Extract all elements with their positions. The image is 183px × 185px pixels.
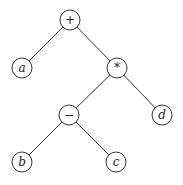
node-c: c <box>106 152 126 172</box>
node-b: b <box>12 152 32 172</box>
node-label: d <box>158 108 166 122</box>
node-plus: + <box>60 10 80 30</box>
node-minus: − <box>59 105 79 125</box>
node-label: + <box>65 13 75 27</box>
node-label: b <box>18 155 26 169</box>
node-label: − <box>64 108 74 122</box>
expression-tree-diagram: +a*−dbc <box>0 0 183 185</box>
node-label: c <box>113 155 120 169</box>
node-times: * <box>107 58 127 78</box>
node-label: a <box>18 61 25 75</box>
node-label: * <box>114 61 120 75</box>
node-a: a <box>12 58 32 78</box>
edges <box>22 20 162 162</box>
node-d: d <box>152 105 172 125</box>
tree-svg: +a*−dbc <box>0 0 183 185</box>
